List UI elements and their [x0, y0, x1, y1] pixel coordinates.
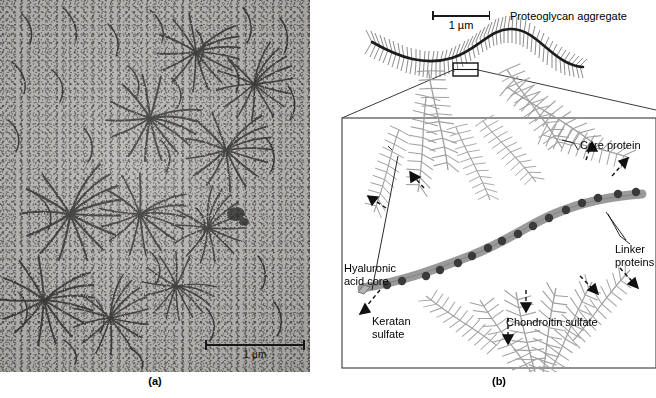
panel-a-label: (a): [0, 375, 310, 387]
keratan-sulfate-label-line2: sulfate: [372, 328, 411, 341]
linker-proteins-label: Linker proteins: [615, 243, 654, 269]
micrograph-vignette: [0, 0, 310, 372]
figure-proteoglycan-aggregate: 1 µm (a): [0, 0, 656, 398]
keratan-sulfate-label-line1: Keratan: [372, 315, 411, 328]
linker-proteins-label-line1: Linker: [615, 243, 654, 256]
proteoglycan-aggregate-label: Proteoglycan aggregate: [510, 10, 627, 23]
chondroitin-sulfate-label: Chondroitin sulfate: [506, 316, 598, 329]
diagram-scale-bar: [432, 15, 490, 17]
hyaluronic-acid-core-label: Hyaluronic acid core: [344, 262, 396, 288]
micrograph-scale-label: 1 µm: [205, 349, 305, 360]
panel-b-label: (b): [342, 375, 656, 387]
linker-proteins-label-line2: proteins: [615, 256, 654, 269]
keratan-sulfate-label: Keratan sulfate: [372, 315, 411, 341]
diagram-scale-label: 1 µm: [428, 19, 494, 32]
hyaluronic-acid-core-label-line2: acid core: [344, 275, 396, 288]
micrograph-scale-bar: [205, 344, 305, 346]
hyaluronic-acid-core-label-line1: Hyaluronic: [344, 262, 396, 275]
core-protein-label: Core protein: [580, 139, 641, 152]
aggregate-overview: [342, 16, 656, 118]
electron-micrograph-panel: 1 µm: [0, 0, 310, 372]
diagram-panel: 1 µm Proteoglycan aggregate Core protein…: [330, 0, 656, 372]
